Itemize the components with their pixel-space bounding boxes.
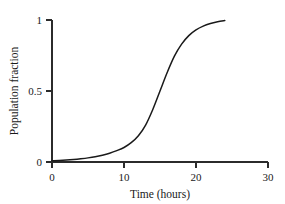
y-tick-label-1: 1 — [37, 14, 43, 26]
y-axis-title: Population fraction — [8, 47, 21, 136]
x-tick-label-30: 30 — [263, 171, 275, 183]
x-tick-label-10: 10 — [119, 171, 131, 183]
y-tick-label-0: 0 — [37, 156, 43, 168]
x-axis-title: Time (hours) — [130, 188, 190, 201]
x-tick-label-20: 20 — [191, 171, 203, 183]
y-tick-label-half: 0.5 — [28, 85, 42, 97]
chart-figure: 1 0.5 0 0 10 20 30 Time (hours) Populati… — [0, 0, 285, 204]
chart-background — [0, 0, 285, 204]
x-tick-label-0: 0 — [49, 171, 55, 183]
logistic-growth-chart: 1 0.5 0 0 10 20 30 Time (hours) Populati… — [0, 0, 285, 204]
